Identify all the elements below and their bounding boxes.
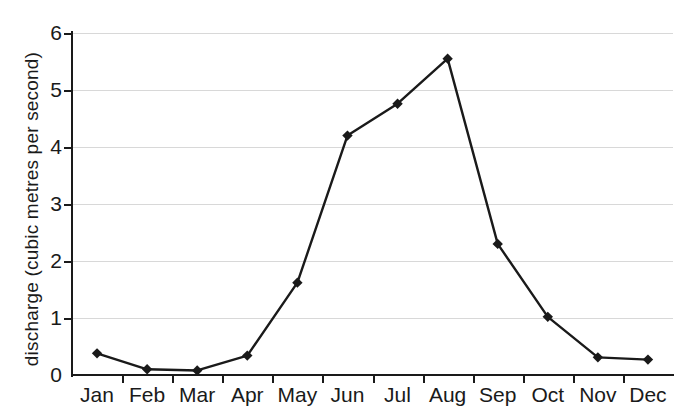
x-axis-tick [573,375,575,383]
chart-root: discharge (cubic metres per second) 0123… [0,0,697,416]
y-axis-tick-label: 6 [32,21,62,45]
x-axis-tick [272,375,274,383]
x-axis-tick [523,375,525,383]
y-axis-tick-label: 4 [32,135,62,159]
data-point-marker [643,354,653,364]
plot-area [72,33,673,375]
y-axis-tick [64,318,72,320]
x-axis-tick [373,375,375,383]
y-axis-tick [64,147,72,149]
series-polyline [97,59,648,371]
y-axis-tick-label: 5 [32,78,62,102]
y-axis-tick-label: 2 [32,249,62,273]
y-axis-tick [64,33,72,35]
x-axis-tick [122,375,124,383]
x-axis-tick [322,375,324,383]
y-axis-tick-label: 3 [32,192,62,216]
data-point-marker [92,348,102,358]
y-axis-tick [64,261,72,263]
y-axis-tick [64,90,72,92]
data-series-line [72,33,673,375]
y-axis-tick [64,204,72,206]
x-axis-tick [222,375,224,383]
y-axis-tick-label: 1 [32,306,62,330]
x-axis-tick-label: Dec [613,383,683,407]
x-axis-tick [423,375,425,383]
x-axis-tick [473,375,475,383]
x-axis-tick [623,375,625,383]
data-point-marker [142,364,152,374]
x-axis-tick [172,375,174,383]
y-axis-tick-label: 0 [32,363,62,387]
